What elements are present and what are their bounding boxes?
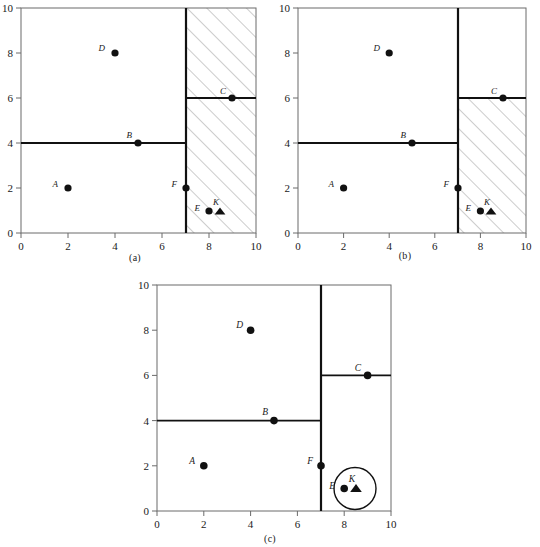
svg-text:D: D: [373, 43, 381, 53]
point-B: [408, 139, 415, 146]
point-K-triangle: [350, 484, 362, 492]
svg-text:10: 10: [279, 2, 291, 14]
svg-text:F: F: [443, 179, 450, 189]
panel-c-plot: 0 2 4 6 8 10 0 2 4 6 8 10: [135, 275, 405, 530]
svg-text:0: 0: [8, 227, 14, 239]
point-C: [364, 372, 372, 380]
point-B: [270, 417, 278, 425]
svg-text:C: C: [220, 86, 227, 96]
panel-a-plot: 0 2 4 6 8 10 0 2 4 6 8 10: [0, 0, 270, 250]
point-D: [111, 49, 118, 56]
panel-b-ytick-labels: 0 2 4 6 8 10: [279, 2, 291, 239]
panel-a-xticks: [21, 233, 256, 238]
svg-text:F: F: [306, 456, 313, 466]
svg-text:K: K: [348, 474, 356, 484]
panel-c-axes: [157, 285, 391, 511]
svg-text:0: 0: [285, 227, 291, 239]
svg-text:D: D: [235, 320, 243, 330]
svg-text:A: A: [328, 179, 335, 189]
panel-c-partitions: [157, 285, 391, 511]
svg-text:E: E: [194, 203, 201, 213]
svg-text:D: D: [98, 43, 106, 53]
panel-c-point-labels: A B C D E F K: [188, 320, 361, 491]
panel-a-ytick-labels: 0 2 4 6 8 10: [2, 2, 14, 239]
svg-text:8: 8: [206, 240, 212, 252]
panel-c-caption: (c): [135, 533, 405, 544]
point-A: [64, 184, 71, 191]
point-F: [454, 184, 461, 191]
svg-text:4: 4: [285, 137, 291, 149]
svg-text:A: A: [188, 456, 195, 466]
svg-text:E: E: [465, 203, 472, 213]
svg-text:10: 10: [2, 2, 14, 14]
svg-text:8: 8: [341, 518, 347, 530]
panel-c-xticks: [157, 511, 391, 516]
svg-text:6: 6: [159, 240, 165, 252]
svg-text:8: 8: [144, 324, 150, 336]
svg-text:2: 2: [144, 460, 150, 472]
point-C: [499, 94, 506, 101]
svg-text:C: C: [355, 363, 362, 373]
svg-text:6: 6: [285, 92, 291, 104]
svg-text:8: 8: [8, 47, 14, 59]
svg-text:2: 2: [8, 182, 14, 194]
panel-c-ytick-labels: 0 2 4 6 8 10: [138, 279, 150, 517]
svg-text:4: 4: [8, 137, 14, 149]
svg-text:0: 0: [154, 518, 160, 530]
panel-b-caption: (b): [270, 250, 540, 261]
svg-text:2: 2: [285, 182, 291, 194]
panel-b-xticks: [298, 233, 526, 238]
point-D: [247, 326, 255, 334]
figure-root: 0 2 4 6 8 10 0 2 4 6 8 10: [0, 0, 540, 547]
svg-text:4: 4: [112, 240, 118, 252]
panel-c: 0 2 4 6 8 10 0 2 4 6 8 10: [135, 275, 405, 547]
svg-text:6: 6: [144, 369, 150, 381]
point-D: [386, 49, 393, 56]
svg-text:K: K: [212, 197, 220, 207]
panel-a: 0 2 4 6 8 10 0 2 4 6 8 10: [0, 0, 270, 272]
point-A: [340, 184, 347, 191]
svg-text:E: E: [328, 481, 335, 491]
panel-c-yticks: [152, 285, 157, 511]
point-F: [182, 184, 189, 191]
panel-a-hatch-region: [186, 8, 257, 233]
svg-text:6: 6: [295, 518, 301, 530]
panel-a-caption: (a): [0, 252, 270, 263]
svg-text:C: C: [491, 86, 498, 96]
svg-text:0: 0: [18, 240, 24, 252]
svg-text:10: 10: [386, 518, 398, 530]
point-A: [200, 462, 208, 470]
panel-b-yticks: [293, 8, 298, 233]
point-E: [340, 485, 348, 493]
svg-text:B: B: [401, 130, 407, 140]
svg-text:K: K: [483, 197, 491, 207]
panel-c-xtick-labels: 0 2 4 6 8 10: [154, 518, 397, 530]
panel-a-xtick-labels: 0 2 4 6 8 10: [18, 240, 262, 252]
point-F: [317, 462, 325, 470]
svg-text:A: A: [52, 179, 59, 189]
panel-b: 0 2 4 6 8 10 0 2 4 6 8 10: [270, 0, 540, 272]
svg-text:8: 8: [285, 47, 291, 59]
point-C: [228, 94, 235, 101]
svg-text:2: 2: [65, 240, 71, 252]
point-E: [205, 207, 212, 214]
point-B: [134, 139, 141, 146]
svg-text:4: 4: [144, 415, 150, 427]
svg-text:B: B: [262, 407, 268, 417]
svg-text:10: 10: [251, 240, 263, 252]
panel-c-points: [200, 326, 371, 492]
svg-text:2: 2: [201, 518, 207, 530]
svg-text:0: 0: [144, 505, 150, 517]
svg-text:10: 10: [138, 279, 150, 291]
panel-b-plot: 0 2 4 6 8 10 0 2 4 6 8 10: [270, 0, 540, 250]
panel-a-yticks: [16, 8, 21, 233]
svg-text:6: 6: [8, 92, 14, 104]
point-E: [477, 207, 484, 214]
svg-text:F: F: [171, 179, 178, 189]
svg-text:B: B: [127, 130, 133, 140]
svg-text:4: 4: [248, 518, 254, 530]
